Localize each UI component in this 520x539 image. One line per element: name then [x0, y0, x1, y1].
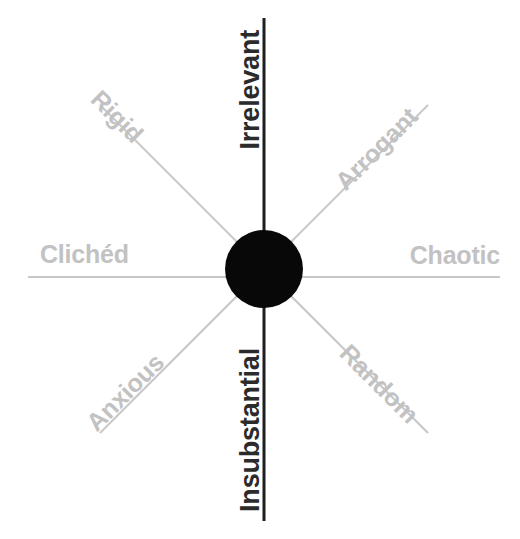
- center-hub: [225, 230, 303, 308]
- spoke-label-insubstantial: Insubstantial: [237, 348, 264, 512]
- spoke-label-cliched: Clichéd: [40, 242, 129, 267]
- spoke-label-irrelevant: Irrelevant: [237, 30, 264, 150]
- radial-spoke-diagram: Irrelevant Insubstantial Clichéd Chaotic…: [0, 0, 520, 539]
- spoke-label-chaotic: Chaotic: [410, 243, 500, 268]
